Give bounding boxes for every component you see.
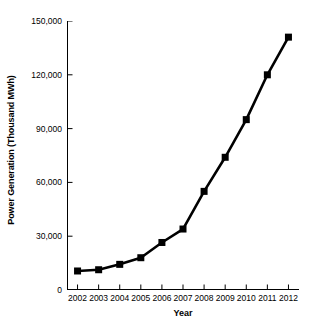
y-tick-label: 120,000 — [31, 70, 62, 79]
x-tick-label: 2009 — [216, 293, 235, 304]
chart-plot-svg — [67, 21, 299, 290]
y-tick-marks — [68, 21, 73, 236]
data-point-2005 — [137, 254, 144, 261]
x-tick-label: 2007 — [174, 293, 193, 304]
y-axis-tick-labels: 030,00060,00090,000120,000150,000 — [20, 0, 64, 335]
power-generation-line-chart: Power Generation (Thousand MWh) 030,0006… — [0, 0, 323, 335]
x-tick-label: 2004 — [110, 293, 129, 304]
data-point-2011 — [264, 71, 271, 78]
x-axis-tick-labels: 2002200320042005200620072008200920102011… — [67, 293, 299, 307]
data-point-2004 — [116, 261, 123, 268]
x-tick-label: 2006 — [152, 293, 171, 304]
data-point-2002 — [74, 267, 81, 274]
data-point-2010 — [243, 116, 250, 123]
x-tick-label: 2003 — [89, 293, 108, 304]
data-point-2012 — [285, 34, 292, 41]
data-point-2006 — [158, 239, 165, 246]
x-tick-label: 2005 — [131, 293, 150, 304]
axis-lines — [67, 21, 299, 290]
y-tick-label: 90,000 — [36, 124, 62, 133]
data-point-markers — [74, 34, 292, 275]
y-tick-label: 150,000 — [31, 17, 62, 26]
x-tick-label: 2002 — [68, 293, 87, 304]
x-axis-title: Year — [67, 308, 299, 318]
data-point-2009 — [222, 154, 229, 161]
x-tick-label: 2011 — [258, 293, 276, 304]
y-axis-title: Power Generation (Thousand MWh) — [0, 0, 22, 300]
y-axis-title-text: Power Generation (Thousand MWh) — [6, 75, 16, 224]
y-tick-label: 30,000 — [36, 232, 62, 241]
x-tick-label: 2008 — [195, 293, 214, 304]
x-tick-marks — [78, 285, 289, 290]
plot-area — [67, 21, 299, 290]
data-point-2003 — [95, 266, 102, 273]
y-tick-label: 60,000 — [36, 178, 62, 187]
x-tick-label: 2012 — [279, 293, 298, 304]
data-point-2007 — [180, 226, 187, 233]
data-point-2008 — [201, 188, 208, 195]
x-tick-label: 2010 — [237, 293, 256, 304]
data-series-line — [78, 37, 289, 271]
y-tick-label: 0 — [57, 286, 62, 295]
